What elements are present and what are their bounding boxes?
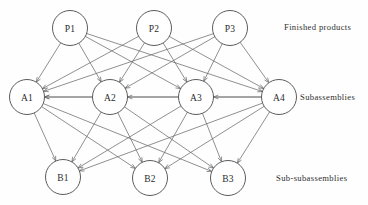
node-label-a3: A3 xyxy=(190,93,202,103)
arrowhead-icon xyxy=(183,77,187,82)
node-label-a4: A4 xyxy=(273,93,285,103)
nodes-layer: P1P2P3A1A2A3A4B1B2B3 xyxy=(10,11,297,196)
tier-label-finished-products: Finished products xyxy=(284,22,351,32)
node-b3[interactable]: B3 xyxy=(211,161,246,196)
node-label-b2: B2 xyxy=(144,174,156,184)
edge-p3-to-a4 xyxy=(240,42,269,82)
arrowhead-icon xyxy=(165,164,170,168)
node-p1[interactable]: P1 xyxy=(53,11,88,46)
node-label-a1: A1 xyxy=(21,93,33,103)
node-label-p1: P1 xyxy=(65,24,75,34)
node-label-p3: P3 xyxy=(225,24,235,34)
arrowhead-icon xyxy=(119,77,123,82)
tier-label-sub-subassemblies: Sub-subassemblies xyxy=(276,173,347,183)
edge-a3-to-b2 xyxy=(159,112,188,163)
edge-p2-to-a3 xyxy=(163,43,187,82)
edge-a3-to-b1 xyxy=(78,106,181,168)
edge-a2-to-b2 xyxy=(118,113,143,163)
edges-layer xyxy=(34,33,270,171)
node-label-a2: A2 xyxy=(104,93,116,103)
arrowhead-icon xyxy=(125,84,130,88)
edge-p3-to-a3 xyxy=(204,44,223,82)
arrowhead-icon xyxy=(36,77,40,82)
node-a4[interactable]: A4 xyxy=(262,80,297,115)
node-label-p2: P2 xyxy=(149,24,159,34)
arrowhead-icon xyxy=(237,158,241,163)
node-b2[interactable]: B2 xyxy=(133,161,168,196)
edge-p2-to-a4 xyxy=(169,36,263,88)
edge-p2-to-a1 xyxy=(42,36,138,88)
node-a2[interactable]: A2 xyxy=(93,80,128,115)
edge-a1-to-b1 xyxy=(34,113,56,161)
edge-a3-to-b3 xyxy=(202,113,221,161)
node-b1[interactable]: B1 xyxy=(46,160,81,195)
arrowhead-icon xyxy=(159,158,163,163)
product-structure-diagram: P1P2P3A1A2A3A4B1B2B3 Finished products S… xyxy=(0,0,368,205)
edge-a4-to-a1 xyxy=(45,95,262,99)
node-p2[interactable]: P2 xyxy=(137,11,172,46)
node-label-b3: B3 xyxy=(222,174,234,184)
arrowhead-icon xyxy=(72,157,76,162)
edge-a2-to-b1 xyxy=(72,112,101,162)
node-a1[interactable]: A1 xyxy=(10,80,45,115)
edge-a4-to-b3 xyxy=(237,112,269,163)
node-p3[interactable]: P3 xyxy=(213,11,248,46)
edge-p1-to-a1 xyxy=(36,43,60,82)
node-a3[interactable]: A3 xyxy=(179,80,214,115)
edge-a4-to-b2 xyxy=(165,106,264,168)
arrowhead-icon xyxy=(97,77,101,82)
node-label-b1: B1 xyxy=(57,173,69,183)
arrowhead-icon xyxy=(78,164,83,168)
arrowhead-icon xyxy=(130,164,135,168)
tier-label-subassemblies: Subassemblies xyxy=(300,92,355,102)
